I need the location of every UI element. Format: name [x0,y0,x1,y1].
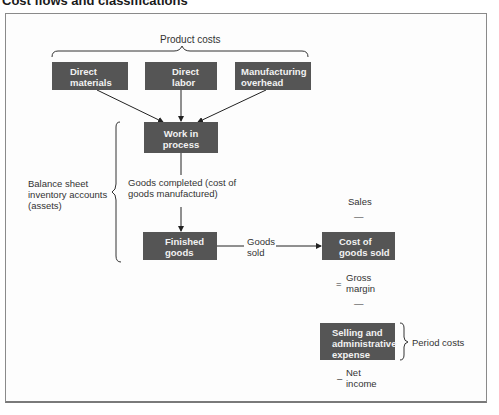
box-line: overhead [241,77,311,88]
balance-sheet-label: Balance sheet inventory accounts (assets… [28,178,107,211]
direct-labor-box: Direct labor [145,62,217,90]
label-line: (assets) [28,200,107,211]
goods-sold-label: Goods sold [247,236,275,258]
product-costs-label: Product costs [160,34,221,45]
box-line: administrative [332,338,395,349]
equals-sign: = [336,278,342,289]
label-line: Goods [247,236,275,247]
label-line: sold [247,247,275,258]
net-income-label: Net income [346,367,377,389]
label-line: Balance sheet [28,178,107,189]
direct-materials-box: Direct materials [52,62,128,90]
box-line: expense [332,349,395,360]
label-line: Goods completed (cost of [128,177,236,188]
box-line: materials [70,77,128,88]
label-line: Net [346,367,377,378]
selling-admin-expense-box: Selling and administrative expense [320,323,395,360]
gross-margin-label: Gross margin [346,272,375,294]
label-line: inventory accounts [28,189,107,200]
sales-label: Sales [348,196,372,207]
minus-sign: – [337,373,342,384]
manufacturing-overhead-box: Manufacturing overhead [235,62,311,90]
box-line: process [144,139,218,150]
label-line: goods manufactured) [128,188,236,199]
work-in-process-box: Work in process [144,122,218,153]
product-costs-brace [52,46,308,57]
box-line: Direct [70,66,128,77]
label-line: Gross [346,272,375,283]
box-line: Work in [144,128,218,139]
finished-goods-box: Finished goods [143,232,217,260]
minus-sign: — [354,298,364,309]
box-line: labor [172,77,217,88]
box-line: Manufacturing [241,66,311,77]
label-line: income [346,378,377,389]
box-line: goods [165,247,217,258]
label-line: margin [346,283,375,294]
box-line: goods sold [339,247,395,258]
balance-sheet-brace [112,122,121,262]
period-costs-brace [400,323,408,360]
box-line: Finished [165,236,217,247]
box-line: Selling and [332,327,395,338]
box-line: Cost of [339,236,395,247]
minus-sign: — [354,211,364,222]
box-line: Direct [172,66,217,77]
period-costs-label: Period costs [412,337,464,348]
goods-completed-label: Goods completed (cost of goods manufactu… [128,177,236,199]
cost-of-goods-sold-box: Cost of goods sold [322,232,395,260]
